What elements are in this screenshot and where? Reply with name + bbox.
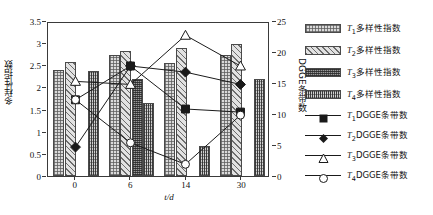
y-tick-left: 0 — [15, 173, 41, 182]
legend-label-bar-2: T2多样性指数 — [347, 43, 401, 58]
x-axis-label: t/d — [139, 192, 199, 202]
legend-item-line-3[interactable]: T3DGGE条带数 — [305, 146, 433, 165]
marker-l3-30 — [236, 61, 246, 70]
marker-l2-14 — [181, 67, 191, 77]
y-tick-left: 1.5 — [15, 107, 41, 116]
lines-layer — [48, 23, 268, 176]
legend-label-bar-4: T4多样性指数 — [347, 87, 401, 102]
line-l3 — [75, 35, 240, 84]
legend-item-bar-2[interactable]: T2多样性指数 — [305, 40, 433, 60]
x-tick: 30 — [226, 180, 256, 190]
legend-swatch-t2 — [305, 46, 341, 55]
legend-item-line-2[interactable]: T2DGGE条带数 — [305, 126, 433, 145]
y-tick-left: 1 — [15, 129, 41, 138]
legend-label-line-2: T2DGGE条带数 — [347, 128, 408, 143]
legend-label-bar-3: T3多样性指数 — [347, 65, 401, 80]
legend-line-entries: T1DGGE条带数T2DGGE条带数T3DGGE条带数T4DGGE条带数 — [305, 106, 433, 185]
marker-l2-30 — [236, 79, 246, 89]
legend-linemarker-t4 — [305, 170, 341, 181]
y-tick-left: 3.5 — [15, 18, 41, 27]
legend-label-line-4: T4DGGE条带数 — [347, 168, 408, 183]
marker-l1-14 — [182, 105, 190, 113]
line-l1 — [75, 66, 240, 112]
x-tick: 0 — [60, 180, 90, 190]
legend-label-line-1: T1DGGE条带数 — [347, 108, 408, 123]
x-tick: 14 — [171, 180, 201, 190]
legend-swatch-t4 — [305, 90, 341, 99]
marker-l4-30 — [237, 111, 245, 119]
legend-swatch-t3 — [305, 68, 341, 77]
legend-item-bar-3[interactable]: T3多样性指数 — [305, 62, 433, 82]
y-tick-right: 15 — [277, 80, 299, 89]
plot-inner — [48, 23, 268, 176]
y-tick-left: 0.5 — [15, 151, 41, 160]
legend-swatch-t1 — [305, 24, 341, 33]
y-tick-left: 2 — [15, 84, 41, 93]
legend-bar-entries: T1多样性指数T2多样性指数T3多样性指数T4多样性指数 — [305, 18, 433, 104]
line-l2 — [75, 66, 240, 147]
y-tick-right: 5 — [277, 142, 299, 151]
plot-area — [47, 22, 269, 177]
y-tick-right: 0 — [277, 173, 299, 182]
legend-item-bar-4[interactable]: T4多样性指数 — [305, 84, 433, 104]
y-tick-left: 2.5 — [15, 62, 41, 71]
marker-l3-14 — [181, 30, 191, 39]
legend-linemarker-t3 — [305, 150, 341, 161]
y-axis-label-left: 多样性指数 — [1, 60, 14, 105]
y-tick-right: 25 — [277, 18, 299, 27]
legend-item-bar-1[interactable]: T1多样性指数 — [305, 18, 433, 38]
y-tick-right: 10 — [277, 111, 299, 120]
marker-l2-0 — [71, 142, 81, 152]
marker-l4-14 — [182, 160, 190, 168]
marker-l3-0 — [71, 76, 81, 85]
legend-label-bar-1: T1多样性指数 — [347, 21, 401, 36]
chart-root: 多样性指数 DGGE条带数 00.511.522.533.5 051015202… — [0, 0, 433, 215]
legend-linemarker-t2 — [305, 130, 341, 141]
y-tick-left: 3 — [15, 40, 41, 49]
chart-legend: T1多样性指数T2多样性指数T3多样性指数T4多样性指数 T1DGGE条带数T2… — [305, 18, 433, 186]
legend-item-line-1[interactable]: T1DGGE条带数 — [305, 106, 433, 125]
x-tick: 6 — [115, 180, 145, 190]
marker-l4-0 — [72, 96, 80, 104]
legend-item-line-4[interactable]: T4DGGE条带数 — [305, 166, 433, 185]
marker-l4-6 — [127, 139, 135, 147]
line-l4 — [75, 100, 240, 165]
y-tick-right: 20 — [277, 49, 299, 58]
legend-label-line-3: T3DGGE条带数 — [347, 148, 408, 163]
legend-linemarker-t1 — [305, 110, 341, 121]
